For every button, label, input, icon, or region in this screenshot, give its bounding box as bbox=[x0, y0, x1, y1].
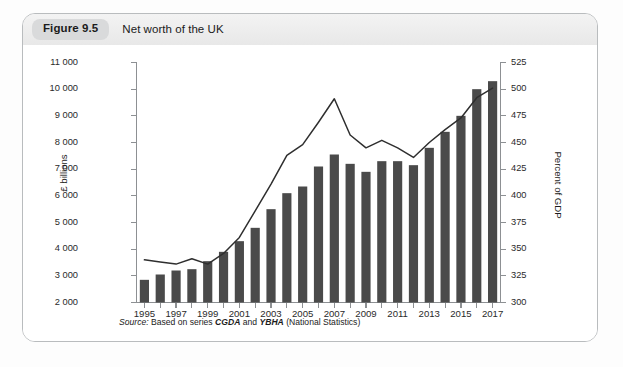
bar bbox=[377, 161, 386, 302]
y-axis-right-tick-label: 400 bbox=[511, 190, 527, 200]
bar bbox=[425, 148, 434, 303]
x-axis-tick bbox=[334, 303, 335, 308]
x-axis-tick bbox=[413, 303, 414, 308]
source-label: Source: bbox=[119, 317, 149, 327]
y-axis-right-tick bbox=[501, 249, 506, 250]
y-axis-left-tick bbox=[131, 249, 136, 250]
source-series-code-2: YBHA bbox=[259, 317, 283, 327]
x-axis-tick-label: 2015 bbox=[450, 308, 471, 319]
bar bbox=[266, 209, 275, 302]
y-axis-left-tick bbox=[131, 195, 136, 196]
y-axis-right-tick bbox=[501, 302, 506, 303]
bar bbox=[235, 241, 244, 302]
y-axis-left-tick bbox=[131, 115, 136, 116]
y-axis-left-tick-label: 5 000 bbox=[55, 217, 78, 227]
y-axis-right-tick bbox=[501, 222, 506, 223]
y-axis-left-tick-label: 11 000 bbox=[50, 57, 78, 67]
y-axis-right-tick bbox=[501, 89, 506, 90]
bar bbox=[330, 155, 339, 303]
y-axis-right-tick bbox=[501, 169, 506, 170]
y-axis-right-tick-label: 450 bbox=[511, 137, 527, 147]
bar bbox=[346, 164, 355, 303]
y-axis-right-tick-label: 325 bbox=[511, 270, 527, 280]
x-axis-tick bbox=[144, 303, 145, 308]
bar bbox=[203, 261, 212, 302]
x-axis-tick bbox=[445, 303, 446, 308]
bar bbox=[456, 116, 465, 303]
y-axis-left-tick bbox=[131, 142, 136, 143]
y-axis-left-tick bbox=[131, 169, 136, 170]
y-axis-left-tick bbox=[131, 62, 136, 63]
y-axis-right-tick bbox=[501, 275, 506, 276]
bar bbox=[171, 271, 180, 303]
x-axis-tick bbox=[476, 303, 477, 308]
x-axis-tick bbox=[270, 303, 271, 308]
x-axis-tick bbox=[191, 303, 192, 308]
chart-body: 11 00010 0009 0008 0007 0006 0005 0004 0… bbox=[23, 45, 597, 342]
source-text-2: and bbox=[240, 317, 259, 327]
bar bbox=[488, 81, 497, 302]
x-axis-tick bbox=[302, 303, 303, 308]
y-axis-right-tick-label: 500 bbox=[511, 83, 527, 93]
y-axis-right-tick-label: 425 bbox=[511, 163, 527, 173]
y-axis-right-tick-label: 525 bbox=[511, 57, 527, 67]
x-axis-tick bbox=[223, 303, 224, 308]
x-axis-tick bbox=[460, 303, 461, 308]
y-axis-left-tick bbox=[131, 89, 136, 90]
x-axis-tick bbox=[318, 303, 319, 308]
y-axis-right-tick-label: 375 bbox=[511, 217, 527, 227]
bar bbox=[140, 280, 149, 303]
bar bbox=[298, 187, 307, 303]
x-axis-tick bbox=[160, 303, 161, 308]
figure-header: Figure 9.5 Net worth of the UK bbox=[23, 14, 597, 46]
bar bbox=[187, 269, 196, 302]
y-axis-left-tick-label: 9 000 bbox=[55, 110, 78, 120]
bar bbox=[251, 228, 260, 303]
x-axis-tick bbox=[397, 303, 398, 308]
bar bbox=[314, 167, 323, 303]
source-series-code-1: CGDA bbox=[215, 317, 240, 327]
bar bbox=[219, 252, 228, 303]
x-axis-tick-label: 2011 bbox=[387, 308, 408, 319]
y-axis-right-tick-label: 475 bbox=[511, 110, 527, 120]
source-text-3: (National Statistics) bbox=[284, 317, 360, 327]
y-axis-left-tick-label: 3 000 bbox=[55, 270, 78, 280]
bar bbox=[441, 132, 450, 303]
x-axis-tick bbox=[350, 303, 351, 308]
y-axis-right-tick bbox=[501, 115, 506, 116]
y-axis-right-tick bbox=[501, 195, 506, 196]
y-axis-left-tick-label: 4 000 bbox=[55, 243, 78, 253]
bar bbox=[393, 161, 402, 302]
y-axis-left-tick bbox=[131, 275, 136, 276]
plot-area: 11 00010 0009 0008 0007 0006 0005 0004 0… bbox=[23, 45, 598, 315]
x-axis-tick-label: 2013 bbox=[419, 308, 440, 319]
y-axis-left-tick-label: 10 000 bbox=[50, 83, 78, 93]
figure-number-badge: Figure 9.5 bbox=[32, 19, 109, 40]
page-root: Figure 9.5 Net worth of the UK 11 00010 … bbox=[0, 0, 623, 367]
bar bbox=[156, 275, 165, 303]
y-axis-right-tick-label: 350 bbox=[511, 243, 527, 253]
source-note: Source: Based on series CGDA and YBHA (N… bbox=[119, 317, 360, 327]
y-axis-right-tick-label: 300 bbox=[511, 297, 527, 307]
y-axis-left-title: £ billions bbox=[58, 154, 69, 191]
y-axis-right-tick bbox=[501, 62, 506, 63]
x-axis-tick-label: 2017 bbox=[482, 308, 503, 319]
bar bbox=[361, 172, 370, 303]
x-axis-tick bbox=[175, 303, 176, 308]
bar bbox=[409, 165, 418, 302]
x-axis-tick bbox=[207, 303, 208, 308]
y-axis-right-title: Percent of GDP bbox=[553, 151, 564, 218]
y-axis-left-tick bbox=[131, 222, 136, 223]
bar-series bbox=[140, 81, 497, 302]
x-axis-tick bbox=[429, 303, 430, 308]
x-axis-tick bbox=[239, 303, 240, 308]
x-axis-tick bbox=[286, 303, 287, 308]
x-axis-tick bbox=[365, 303, 366, 308]
bar bbox=[472, 89, 481, 302]
bar bbox=[282, 193, 291, 302]
figure-title: Net worth of the UK bbox=[122, 24, 223, 36]
y-axis-left-tick-label: 2 000 bbox=[55, 297, 78, 307]
x-axis-tick bbox=[492, 303, 493, 308]
source-text-1: Based on series bbox=[149, 317, 215, 327]
y-axis-right-tick bbox=[501, 142, 506, 143]
